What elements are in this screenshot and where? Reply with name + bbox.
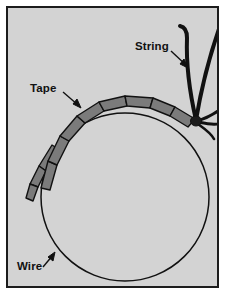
label-tape: Tape xyxy=(30,83,56,95)
string-knot xyxy=(191,116,202,126)
annotation-arrows xyxy=(43,51,188,267)
tape-band xyxy=(41,96,195,190)
figure-drawing xyxy=(8,8,219,288)
tape-arrow xyxy=(63,92,81,108)
wire-arrow xyxy=(43,252,55,267)
label-string: String xyxy=(135,41,169,53)
label-wire: Wire xyxy=(17,261,42,273)
figure-frame: String Tape Wire xyxy=(6,6,219,288)
figure-container: String Tape Wire xyxy=(0,0,234,294)
